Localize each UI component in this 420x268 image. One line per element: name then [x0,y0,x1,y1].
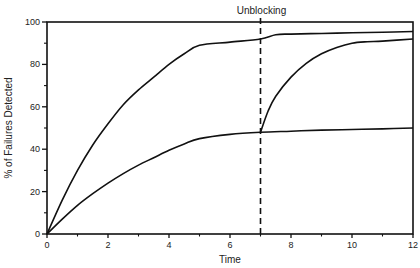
y-tick-label: 20 [30,187,40,197]
x-axis-title: Time [219,254,241,265]
x-tick-label: 6 [227,240,232,250]
x-tick-label: 0 [44,240,49,250]
line-chart: 024681012020406080100 Unblocking Time % … [0,0,420,268]
y-axis-title: % of Failures Detected [3,77,14,178]
plot-frame [47,22,413,234]
series-line-1 [47,32,413,234]
x-tick-label: 12 [408,240,418,250]
x-tick-label: 2 [105,240,110,250]
data-series [47,32,413,234]
y-tick-label: 80 [30,59,40,69]
y-tick-label: 100 [25,17,40,27]
unblocking-label: Unblocking [237,5,286,16]
axis-ticks: 024681012020406080100 [25,17,418,250]
y-tick-label: 40 [30,144,40,154]
y-tick-label: 0 [35,229,40,239]
series-line-3 [261,39,414,132]
x-tick-label: 4 [166,240,171,250]
x-tick-label: 10 [347,240,357,250]
plot-area-border [47,22,413,234]
series-line-2 [47,128,413,234]
y-tick-label: 60 [30,102,40,112]
x-tick-label: 8 [288,240,293,250]
